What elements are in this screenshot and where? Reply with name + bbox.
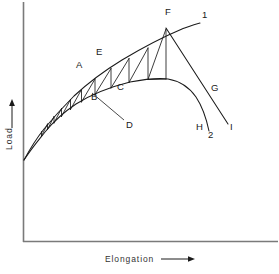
point-label-G: G — [211, 82, 219, 93]
point-label-I: I — [230, 121, 233, 132]
truss-diagonal — [148, 29, 166, 80]
axes-group — [23, 2, 278, 242]
truss-diagonal — [129, 48, 148, 83]
figure-container: Load Elongation — [0, 0, 279, 274]
load-elongation-chart: Load Elongation — [0, 0, 279, 274]
curve-label-2: 2 — [208, 129, 213, 140]
point-label-H: H — [196, 121, 203, 132]
truss-lower-chord — [148, 79, 166, 80]
x-axis-annotation: Elongation — [105, 254, 195, 264]
point-labels-group: A B C D E F G H I 1 2 — [76, 6, 233, 140]
point-label-D: D — [126, 119, 133, 130]
arrow-right-icon — [188, 256, 195, 262]
point-label-E: E — [96, 46, 103, 57]
line-F-G-I — [166, 28, 228, 124]
curve-label-1: 1 — [202, 9, 207, 20]
y-axis-label: Load — [4, 127, 14, 150]
point-label-C: C — [117, 81, 124, 92]
point-label-B: B — [91, 91, 98, 102]
x-axis-label: Elongation — [105, 254, 154, 264]
arrow-up-icon — [9, 99, 15, 106]
y-axis-annotation: Load — [4, 99, 15, 150]
point-label-F: F — [165, 6, 171, 17]
upper-curve-1 — [24, 23, 200, 160]
point-label-A: A — [76, 59, 83, 70]
truss-diagonal — [71, 90, 82, 110]
